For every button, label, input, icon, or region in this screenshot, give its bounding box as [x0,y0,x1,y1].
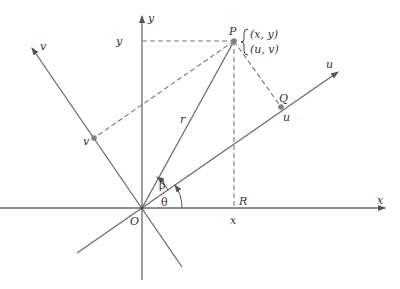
y-tick-label: y [115,35,123,48]
radius-line [142,41,234,208]
point-p-dot [231,38,237,44]
y-axis-label: y [147,12,155,25]
radius-label: r [180,113,186,126]
v-axis-label: v [40,40,47,53]
point-p-label: P [228,25,237,38]
point-q-dot [278,104,284,110]
rotation-diagram: y x u v y x u v O P Q R r θ β (x, y) (u,… [0,0,400,289]
coords-brace [241,29,248,55]
x-tick-label: x [230,214,237,227]
theta-arc [175,185,182,208]
v-projection-dashed [94,41,234,138]
v-axis [32,48,182,267]
x-axis-label: x [377,194,384,207]
origin-label: O [130,215,139,228]
point-q-label: Q [279,92,288,105]
beta-label: β [159,179,165,192]
coords-uv-label: (u, v) [250,43,279,56]
u-axis [77,72,338,253]
u-tick-label: u [283,111,290,124]
v-tick-label: v [83,135,90,148]
coords-xy-label: (x, y) [250,28,278,41]
theta-label: θ [161,196,168,209]
origin-dot [140,206,143,209]
point-r-label: R [238,195,247,208]
point-v-dot [91,135,97,141]
u-axis-label: u [326,58,333,71]
